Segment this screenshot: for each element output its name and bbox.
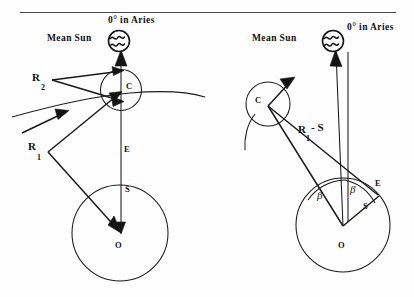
left-r1-label: R	[28, 140, 37, 152]
left-mean-sun-label: Mean Sun	[47, 33, 92, 43]
right-radius-expression-subscript: 1	[306, 134, 310, 143]
left-r2-upper-ray	[52, 71, 122, 80]
left-observer-circle	[72, 185, 168, 281]
right-beta-right-label: β	[349, 183, 356, 195]
left-r1-subscript: 1	[37, 153, 41, 162]
right-point-e-label: E	[375, 178, 381, 188]
right-aries-label: 0° in Aries	[347, 22, 394, 32]
right-observer-to-sun-line	[336, 52, 343, 226]
left-r1-upper-ray	[48, 93, 120, 152]
left-r2-subscript: 2	[41, 83, 45, 92]
left-point-c-label: C	[126, 81, 132, 91]
diagram-canvas: Mean Sun 0° in Aries C E S O R 2 R 1 Mea…	[0, 0, 414, 297]
right-beta-left-label: β	[316, 189, 323, 201]
right-beta-left-arc	[308, 180, 345, 200]
right-mean-sun-label: Mean Sun	[252, 33, 297, 43]
left-aries-label: 0° in Aries	[108, 15, 155, 25]
right-segment-s-label: S	[363, 201, 368, 211]
right-orbit-arc	[245, 114, 255, 150]
left-point-e-label: E	[124, 144, 130, 154]
astronomy-diagram-figure: Mean Sun 0° in Aries C E S O R 2 R 1 Mea…	[0, 0, 414, 297]
left-sun-aries-glyph	[109, 31, 130, 52]
left-vertical-arrowhead-at-sun	[115, 50, 127, 66]
left-r1-lower-ray	[48, 152, 119, 231]
right-point-o-label: O	[338, 240, 345, 250]
left-r2-upper-arrowhead	[112, 67, 124, 76]
left-r2-label: R	[32, 71, 41, 83]
left-segment-s-label: S	[125, 184, 130, 194]
left-point-o-label: O	[115, 240, 122, 250]
right-radius-expression-tail: - S	[311, 121, 324, 133]
right-sun-aries-glyph	[323, 31, 344, 52]
right-point-c-label: C	[255, 95, 261, 105]
left-orbit-arc	[12, 92, 205, 117]
right-c-to-e-line	[268, 106, 378, 195]
right-sun-arrowhead	[330, 50, 342, 67]
left-arc-direction-arrowhead	[55, 109, 69, 120]
